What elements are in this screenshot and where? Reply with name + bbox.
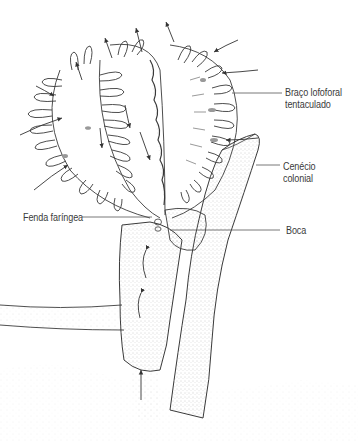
arrow-in-left-2 (34, 165, 68, 190)
arrow-in-left-3 (36, 86, 54, 96)
arrow-in-left-1 (20, 118, 62, 135)
arrow-in-right-3 (214, 40, 238, 52)
label-pharyngeal-slit: Fenda faríngea (23, 211, 83, 223)
label-coenecium: Cenécio colonial (283, 160, 316, 184)
arrow-out-4 (76, 62, 82, 80)
tentacles-left (28, 46, 122, 211)
tentacles-middle (100, 40, 144, 193)
arrow-internal-1 (100, 128, 102, 148)
label-mouth: Boca (286, 224, 306, 236)
arrow-out-3 (166, 22, 174, 42)
arrow-out-1 (105, 38, 112, 58)
arrow-internal-2 (140, 132, 150, 160)
arrow-in-right-1 (222, 70, 258, 73)
coenecium-tube (170, 134, 259, 418)
label-lophophore-arm: Braço lofoforal tentaculado (285, 86, 342, 110)
